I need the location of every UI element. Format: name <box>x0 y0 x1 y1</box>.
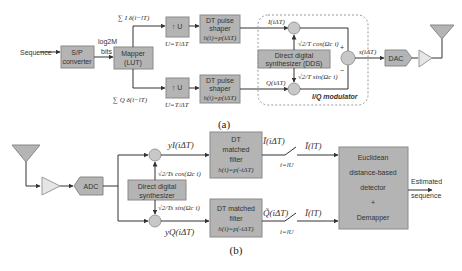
input-label: Sequence <box>20 49 52 57</box>
svg-text:Q(iΔT): Q(iΔT) <box>266 79 286 87</box>
svg-text:I(iΔT): I(iΔT) <box>267 18 286 26</box>
svg-text:filter: filter <box>229 156 243 163</box>
svg-text:Euclidean: Euclidean <box>358 154 389 161</box>
svg-text:sequence: sequence <box>411 192 441 200</box>
svg-text:Ĩ(iΔT): Ĩ(iΔT) <box>262 136 285 146</box>
svg-text:DT matched: DT matched <box>217 205 255 212</box>
svg-text:bits: bits <box>101 48 112 55</box>
svg-text:(LUT): (LUT) <box>124 59 142 67</box>
svg-text:Demapper: Demapper <box>357 214 390 222</box>
svg-text:∑ I δ(i−lT): ∑ I δ(i−lT) <box>118 14 150 22</box>
svg-text:Q̃(iΔT): Q̃(iΔT) <box>263 208 288 218</box>
svg-text:shaper: shaper <box>209 25 231 33</box>
svg-text:U=T/ΔT: U=T/ΔT <box>165 101 190 109</box>
svg-text:shaper: shaper <box>209 85 231 93</box>
svg-text:yQ(iΔT): yQ(iΔT) <box>164 227 194 237</box>
svg-text:√2/T sin(Ωc i): √2/T sin(Ωc i) <box>298 73 338 81</box>
svg-text:∑ Q δ(i−lT): ∑ Q δ(i−lT) <box>113 96 148 104</box>
svg-text:DAC: DAC <box>389 55 404 62</box>
svg-text:detector: detector <box>360 184 386 191</box>
svg-text:U=T/ΔT: U=T/ΔT <box>165 40 190 48</box>
svg-text:I/Q modulator: I/Q modulator <box>312 93 359 101</box>
svg-text:√2/Ts cos(Ωc i): √2/Ts cos(Ωc i) <box>158 170 202 178</box>
rx-antenna-icon <box>12 145 40 162</box>
mixer-q <box>288 83 300 95</box>
svg-text:log2M: log2M <box>98 38 117 46</box>
mixer-i <box>149 149 161 161</box>
svg-text:DT pulse: DT pulse <box>206 77 234 85</box>
receiver-diagram: ADC Direct digital synthesizer √2/Ts cos… <box>12 132 442 257</box>
svg-text:DT pulse: DT pulse <box>206 17 234 25</box>
amplifier-icon <box>419 50 432 67</box>
svg-text:(b): (b) <box>230 244 243 257</box>
svg-text:h(i)=p(iΔT): h(i)=p(iΔT) <box>204 34 238 42</box>
sampling-switch-i <box>262 147 296 155</box>
svg-text:ADC: ADC <box>84 183 99 190</box>
svg-text:↑ U: ↑ U <box>172 84 183 91</box>
svg-text:i=lU: i=lU <box>280 228 295 236</box>
mixer-q <box>149 215 161 227</box>
svg-text:√2/T cos(Ωc i): √2/T cos(Ωc i) <box>298 40 339 48</box>
svg-text:matched: matched <box>223 146 250 153</box>
svg-text:S/P: S/P <box>71 49 83 56</box>
svg-text:synthesizer: synthesizer <box>139 192 175 200</box>
svg-text:s(iΔT): s(iΔT) <box>359 48 377 56</box>
amplifier-icon <box>42 177 60 195</box>
svg-text:Mapper: Mapper <box>121 50 145 58</box>
svg-text:distance-based: distance-based <box>349 169 397 176</box>
svg-text:filter: filter <box>229 215 243 222</box>
svg-text:h(i)=p(-iΔT): h(i)=p(-iΔT) <box>218 225 254 233</box>
svg-text:h(i)=p(iΔT): h(i)=p(iΔT) <box>204 94 238 102</box>
svg-text:−: − <box>340 67 344 74</box>
svg-text:+: + <box>371 199 375 206</box>
adder <box>341 51 355 65</box>
svg-text:DT: DT <box>231 136 241 143</box>
svg-text:Estimated: Estimated <box>411 178 442 185</box>
svg-text:+: + <box>340 44 344 51</box>
diagram-canvas: Sequence S/P converter log2M bits Mapper… <box>0 0 462 271</box>
svg-text:Ĩ(lT): Ĩ(lT) <box>304 208 322 218</box>
mixer-i <box>288 22 300 34</box>
svg-text:i=lU: i=lU <box>280 161 295 169</box>
tx-antenna-icon <box>430 25 454 39</box>
svg-text:√2/Ts sin(Ωc i): √2/Ts sin(Ωc i) <box>158 204 200 212</box>
svg-text:Direct digital: Direct digital <box>138 183 177 191</box>
svg-text:(a): (a) <box>218 118 231 131</box>
svg-text:h(i)=p(-iΔT): h(i)=p(-iΔT) <box>218 166 254 174</box>
svg-text:yI(iΔT): yI(iΔT) <box>167 140 194 150</box>
transmitter-diagram: Sequence S/P converter log2M bits Mapper… <box>20 14 454 131</box>
svg-text:converter: converter <box>62 58 92 65</box>
svg-text:Ĩ(lT): Ĩ(lT) <box>304 141 322 151</box>
svg-text:Direct digital: Direct digital <box>275 52 314 60</box>
svg-text:synthesizer (DDS): synthesizer (DDS) <box>266 60 323 68</box>
svg-text:↑ U: ↑ U <box>172 23 183 30</box>
